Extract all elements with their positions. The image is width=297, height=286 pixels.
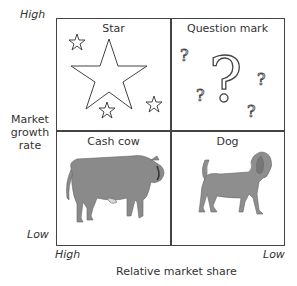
svg-text:?: ?: [180, 46, 189, 65]
x-axis-low-label: Low: [263, 248, 285, 261]
svg-text:?: ?: [257, 70, 266, 89]
y-axis-label-line: Market: [6, 113, 54, 126]
cow-icon: [57, 132, 170, 245]
x-axis-label: Relative market share: [116, 265, 237, 278]
quadrant-dog: Dog: [171, 132, 284, 245]
svg-text:?: ?: [209, 43, 242, 116]
svg-text:?: ?: [247, 102, 256, 121]
y-axis-label-line: growth: [6, 126, 54, 139]
dog-icon: [171, 132, 284, 245]
bcg-matrix-grid: Star Question mark ? ? ? ? ? Cash cow: [56, 18, 285, 246]
quadrant-question-mark: Question mark ? ? ? ? ?: [171, 19, 284, 130]
star-icon: [57, 19, 170, 130]
y-axis-low-label: Low: [27, 228, 49, 241]
y-axis-high-label: High: [20, 8, 45, 21]
quadrant-cash-cow: Cash cow: [57, 132, 170, 245]
question-mark-icon: ? ? ? ? ?: [171, 19, 284, 130]
x-axis-high-label: High: [55, 248, 80, 261]
y-axis-label-line: rate: [6, 139, 54, 152]
y-axis-label: Market growth rate: [6, 113, 54, 152]
quadrant-star: Star: [57, 19, 170, 130]
svg-text:?: ?: [196, 86, 205, 105]
